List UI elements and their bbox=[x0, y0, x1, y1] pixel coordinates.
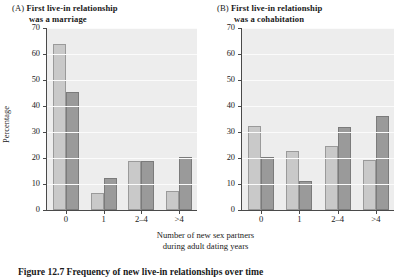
panel-b-title-line1: First live-in relationship bbox=[231, 3, 322, 13]
x-axis-tick-label: 0 bbox=[246, 214, 276, 224]
bar-male-1 bbox=[104, 178, 117, 211]
gridline bbox=[242, 80, 394, 81]
gridline bbox=[47, 184, 197, 185]
y-axis-tick-label: 70 bbox=[209, 24, 235, 32]
gridline bbox=[242, 132, 394, 133]
x-axis-tick-label: >4 bbox=[164, 214, 194, 224]
panel-a-title-line1: First live-in relationship bbox=[26, 3, 117, 13]
gridline bbox=[47, 132, 197, 133]
panel-b-title-line2: was a cohabitation bbox=[234, 14, 407, 25]
gridline bbox=[47, 158, 197, 159]
x-axis-tick-label: 2–4 bbox=[126, 214, 156, 224]
gridline bbox=[47, 54, 197, 55]
y-axis-tick bbox=[238, 80, 242, 81]
x-axis-tick-label: 1 bbox=[284, 214, 314, 224]
y-axis-tick-label: 30 bbox=[209, 128, 235, 136]
y-axis-tick bbox=[43, 158, 47, 159]
bar-male-4 bbox=[376, 116, 389, 210]
y-axis-tick-label: 20 bbox=[14, 154, 40, 162]
y-axis-tick-label: 20 bbox=[209, 154, 235, 162]
x-axis-label-line1: Number of new sex partners bbox=[157, 230, 254, 240]
y-axis-label-a: Percentage bbox=[2, 80, 11, 170]
gridline bbox=[242, 184, 394, 185]
y-axis-tick-label: 40 bbox=[14, 102, 40, 110]
bar-male-0 bbox=[66, 92, 79, 210]
panel-b-title: (B) First live-in relationship was a coh… bbox=[217, 3, 407, 26]
bar-female-24 bbox=[128, 161, 141, 210]
figure-caption: Figure 12.7 Frequency of new live-in rel… bbox=[18, 266, 411, 277]
panel-a-tag: (A) bbox=[12, 3, 24, 13]
bar-female-1 bbox=[91, 193, 104, 210]
y-axis-tick-label: 0 bbox=[14, 206, 40, 214]
y-axis-tick bbox=[43, 132, 47, 133]
y-axis-tick-label: 60 bbox=[14, 50, 40, 58]
y-axis-tick-label: 30 bbox=[14, 128, 40, 136]
gridline bbox=[242, 158, 394, 159]
x-axis-label: Number of new sex partners during adult … bbox=[0, 230, 411, 251]
bar-male-24 bbox=[338, 127, 351, 210]
gridline bbox=[47, 28, 197, 29]
y-axis-tick-label: 50 bbox=[14, 76, 40, 84]
y-axis-tick bbox=[43, 184, 47, 185]
y-axis-tick bbox=[238, 210, 242, 211]
y-axis-tick bbox=[238, 28, 242, 29]
panel-b-plot-area: 012–4>4 bbox=[241, 28, 394, 211]
panel-b-bars bbox=[242, 28, 394, 210]
y-axis-tick bbox=[238, 54, 242, 55]
y-axis-tick bbox=[238, 106, 242, 107]
x-axis-tick-label: 1 bbox=[89, 214, 119, 224]
y-axis-tick-label: 60 bbox=[209, 50, 235, 58]
gridline bbox=[242, 54, 394, 55]
panel-a-bars bbox=[47, 28, 197, 210]
gridline bbox=[47, 106, 197, 107]
y-axis-tick-label: 0 bbox=[209, 206, 235, 214]
x-axis-label-line2: during adult dating years bbox=[163, 241, 249, 251]
bar-female-4 bbox=[166, 191, 179, 211]
bar-male-24 bbox=[141, 161, 154, 210]
panel-a-title: (A) First live-in relationship was a mar… bbox=[12, 3, 201, 26]
panel-b-plot-wrap: 012–4>4 bbox=[205, 28, 411, 228]
y-axis-tick bbox=[43, 28, 47, 29]
gridline bbox=[242, 28, 394, 29]
x-axis-tick-label: 0 bbox=[51, 214, 81, 224]
gridline bbox=[242, 106, 394, 107]
panel-b-tag: (B) bbox=[217, 3, 229, 13]
y-axis-tick-label: 10 bbox=[14, 180, 40, 188]
bar-female-24 bbox=[325, 146, 338, 210]
figure-container: (A) First live-in relationship was a mar… bbox=[0, 0, 411, 277]
y-axis-tick bbox=[238, 184, 242, 185]
panel-b: (B) First live-in relationship was a coh… bbox=[205, 0, 411, 258]
y-axis-tick bbox=[238, 158, 242, 159]
bar-male-1 bbox=[299, 181, 312, 210]
y-axis-tick bbox=[43, 54, 47, 55]
panel-a: (A) First live-in relationship was a mar… bbox=[0, 0, 205, 258]
y-axis-tick-label: 70 bbox=[14, 24, 40, 32]
x-axis-tick-label: >4 bbox=[361, 214, 391, 224]
y-axis-tick bbox=[238, 132, 242, 133]
y-axis-tick bbox=[43, 210, 47, 211]
x-axis-tick-label: 2–4 bbox=[323, 214, 353, 224]
bar-female-0 bbox=[248, 126, 261, 210]
y-axis-tick bbox=[43, 106, 47, 107]
panel-a-plot-area: 012–4>4 bbox=[46, 28, 197, 211]
y-axis-tick-label: 50 bbox=[209, 76, 235, 84]
y-axis-tick-label: 10 bbox=[209, 180, 235, 188]
bar-female-1 bbox=[286, 151, 299, 210]
gridline bbox=[47, 80, 197, 81]
panel-a-title-line2: was a marriage bbox=[29, 14, 201, 25]
y-axis-tick bbox=[43, 80, 47, 81]
bar-female-0 bbox=[53, 44, 66, 210]
y-axis-tick-label: 40 bbox=[209, 102, 235, 110]
